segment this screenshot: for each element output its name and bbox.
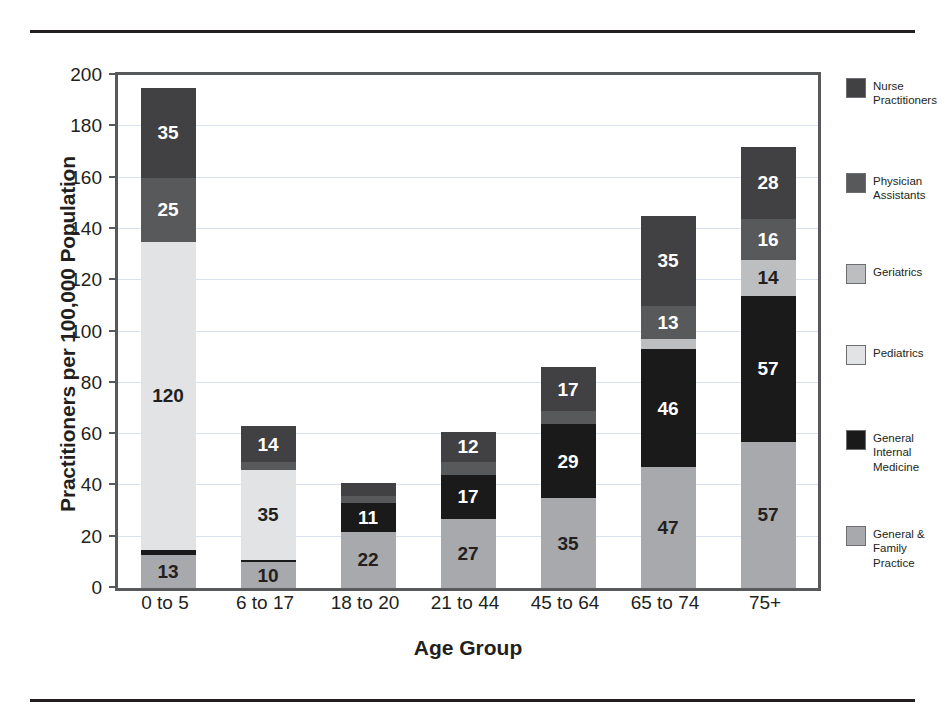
bar-segment-value-label: 13 (157, 562, 178, 581)
bar-segment[interactable]: 35 (141, 88, 196, 178)
legend-item[interactable]: Physician Assistants (846, 173, 925, 203)
bar-segment[interactable]: 11 (341, 503, 396, 531)
bar-stack[interactable]: 5757141628 (741, 75, 796, 588)
legend-label: General & Family Practice (873, 526, 925, 570)
bar-segment[interactable]: 12 (441, 432, 496, 463)
bar-stack[interactable]: 271712 (441, 75, 496, 588)
legend-item[interactable]: Geriatrics (846, 264, 922, 284)
bar-segment[interactable] (441, 462, 496, 475)
y-axis-tick (109, 278, 118, 280)
legend-swatch (846, 173, 866, 193)
x-axis-tick-label: 6 to 17 (215, 592, 315, 614)
bar-segment[interactable]: 57 (741, 296, 796, 442)
bar-segment[interactable]: 35 (541, 498, 596, 588)
y-axis-tick-label: 80 (46, 372, 102, 394)
x-axis-tick-label: 45 to 64 (515, 592, 615, 614)
y-axis-tick-label: 100 (46, 321, 102, 343)
y-axis-tick (109, 176, 118, 178)
y-axis-tick-label: 160 (46, 167, 102, 189)
bar-segment[interactable] (541, 411, 596, 424)
y-axis-tick (109, 73, 118, 75)
bar-segment[interactable] (341, 483, 396, 496)
bar-segment[interactable]: 46 (641, 349, 696, 467)
bar-segment-value-label: 35 (657, 251, 678, 270)
bar-stack[interactable]: 103514 (241, 75, 296, 588)
bar-segment-value-label: 35 (557, 534, 578, 553)
legend-item[interactable]: Nurse Practitioners (846, 78, 937, 108)
bar-segment[interactable] (341, 496, 396, 504)
bar-segment[interactable]: 35 (241, 470, 296, 560)
bar-segment-value-label: 57 (757, 359, 778, 378)
legend-label: Pediatrics (873, 345, 924, 360)
y-axis-tick-label: 200 (46, 64, 102, 86)
legend-label: Geriatrics (873, 264, 922, 279)
bar-segment-value-label: 35 (257, 505, 278, 524)
bar-segment[interactable]: 29 (541, 424, 596, 498)
bar-series-container: 1312025351035142211271712352917474613355… (118, 75, 818, 588)
stacked-bar-chart-figure: Practitioners per 100,000 Population 020… (0, 0, 945, 709)
plot-area: 020406080100120140160180200 131202535103… (115, 72, 821, 591)
y-axis-tick (109, 432, 118, 434)
bar-segment[interactable]: 14 (241, 426, 296, 462)
y-axis-tick (109, 227, 118, 229)
bar-segment-value-label: 17 (557, 380, 578, 399)
y-axis-tick (109, 483, 118, 485)
x-axis-tick-label: 75+ (715, 592, 815, 614)
y-axis-tick-label: 20 (46, 526, 102, 548)
bar-segment[interactable]: 14 (741, 260, 796, 296)
bar-segment[interactable] (141, 550, 196, 555)
y-axis-tick-label: 120 (46, 269, 102, 291)
bar-segment[interactable]: 57 (741, 442, 796, 588)
bar-segment-value-label: 25 (157, 200, 178, 219)
bar-segment[interactable]: 27 (441, 519, 496, 588)
y-axis-tick-label: 180 (46, 115, 102, 137)
bar-segment[interactable]: 10 (241, 562, 296, 588)
bar-segment[interactable]: 120 (141, 242, 196, 550)
bar-segment[interactable]: 13 (141, 555, 196, 588)
bar-segment-value-label: 12 (457, 437, 478, 456)
bar-segment[interactable]: 35 (641, 216, 696, 306)
bar-segment[interactable] (241, 560, 296, 563)
x-axis-tick-label: 65 to 74 (615, 592, 715, 614)
legend-swatch (846, 526, 866, 546)
y-axis-tick-label: 140 (46, 218, 102, 240)
bar-stack[interactable]: 131202535 (141, 75, 196, 588)
x-axis-title: Age Group (115, 636, 821, 660)
bar-segment-value-label: 11 (358, 508, 378, 527)
legend-swatch (846, 430, 866, 450)
bar-segment[interactable]: 13 (641, 306, 696, 339)
legend-swatch (846, 264, 866, 284)
y-axis-tick-label: 0 (46, 577, 102, 599)
legend-item[interactable]: Pediatrics (846, 345, 924, 365)
bar-segment-value-label: 16 (757, 230, 778, 249)
bar-stack[interactable]: 47461335 (641, 75, 696, 588)
bar-segment[interactable]: 17 (441, 475, 496, 519)
bar-segment[interactable]: 17 (541, 367, 596, 411)
x-axis-tick-label: 18 to 20 (315, 592, 415, 614)
bar-segment[interactable]: 25 (141, 178, 196, 242)
bar-segment-value-label: 22 (357, 550, 378, 569)
bar-stack[interactable]: 352917 (541, 75, 596, 588)
legend-item[interactable]: General Internal Medicine (846, 430, 919, 474)
bar-segment[interactable]: 28 (741, 147, 796, 219)
bar-segment[interactable] (641, 339, 696, 349)
bar-segment-value-label: 28 (757, 173, 778, 192)
bar-segment-value-label: 17 (457, 487, 478, 506)
bar-stack[interactable]: 2211 (341, 75, 396, 588)
legend-label: Physician Assistants (873, 173, 925, 203)
bar-segment[interactable]: 22 (341, 532, 396, 588)
y-axis-tick (109, 330, 118, 332)
legend-swatch (846, 345, 866, 365)
bar-segment-value-label: 47 (657, 518, 678, 537)
bar-segment-value-label: 57 (757, 505, 778, 524)
x-axis-tick-label: 0 to 5 (115, 592, 215, 614)
bar-segment[interactable] (241, 462, 296, 470)
bar-segment[interactable]: 16 (741, 219, 796, 260)
y-axis-tick (109, 381, 118, 383)
bar-segment[interactable]: 47 (641, 467, 696, 588)
bar-segment-value-label: 46 (657, 399, 678, 418)
y-axis-tick (109, 535, 118, 537)
bar-segment-value-label: 27 (457, 544, 478, 563)
legend-label: General Internal Medicine (873, 430, 919, 474)
legend-item[interactable]: General & Family Practice (846, 526, 925, 570)
